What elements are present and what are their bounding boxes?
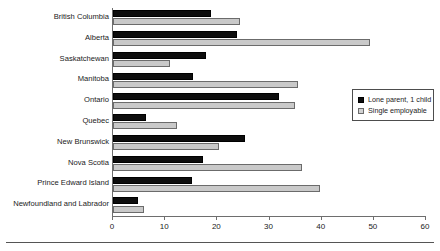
- bar-single-employable: [113, 122, 177, 129]
- bar-lone-parent: [113, 31, 237, 38]
- chart-legend: Lone parent, 1 child Single employable: [352, 89, 434, 121]
- footer-divider: [6, 242, 434, 243]
- bar-group-row: Saskatchewan: [112, 50, 425, 71]
- category-axis-label: Prince Edward Island: [0, 178, 112, 187]
- x-axis-tick: [269, 216, 270, 220]
- bar-lone-parent: [113, 114, 146, 121]
- bar-lone-parent: [113, 52, 206, 59]
- bar-lone-parent: [113, 197, 138, 204]
- bar-single-employable: [113, 206, 144, 213]
- black-square-swatch-icon: [358, 97, 364, 103]
- bar-lone-parent: [113, 135, 245, 142]
- bar-single-employable: [113, 185, 320, 192]
- x-axis-tick: [216, 216, 217, 220]
- category-axis-label: Newfoundland and Labrador: [0, 199, 112, 208]
- bar-chart-figure: 0102030405060 British ColumbiaAlbertaSas…: [0, 0, 440, 251]
- x-axis-tick-label: 30: [249, 222, 289, 232]
- bar-single-employable: [113, 102, 295, 109]
- gray-square-swatch-icon: [358, 108, 364, 114]
- category-axis-label: Quebec: [0, 116, 112, 125]
- bar-single-employable: [113, 143, 219, 150]
- category-axis-label: Alberta: [0, 33, 112, 42]
- bar-single-employable: [113, 39, 370, 46]
- x-axis-tick-label: 20: [196, 222, 236, 232]
- x-axis-tick: [321, 216, 322, 220]
- x-axis-tick-label: 50: [353, 222, 393, 232]
- bar-single-employable: [113, 18, 240, 25]
- x-axis-tick: [425, 216, 426, 220]
- category-axis-label: New Brunswick: [0, 137, 112, 146]
- x-axis-tick: [112, 216, 113, 220]
- category-axis-label: Saskatchewan: [0, 54, 112, 63]
- bar-lone-parent: [113, 93, 279, 100]
- category-axis-label: British Columbia: [0, 12, 112, 21]
- bar-single-employable: [113, 81, 298, 88]
- x-axis-tick-label: 40: [301, 222, 341, 232]
- legend-label-lone-parent: Lone parent, 1 child: [368, 95, 431, 104]
- legend-entry-lone-parent: Lone parent, 1 child: [358, 94, 429, 105]
- bar-single-employable: [113, 164, 302, 171]
- x-axis-tick-label: 60: [405, 222, 440, 232]
- bar-lone-parent: [113, 177, 192, 184]
- x-axis-tick-label: 10: [144, 222, 184, 232]
- category-axis-label: Nova Scotia: [0, 158, 112, 167]
- bar-group-row: Alberta: [112, 29, 425, 50]
- category-axis-label: Manitoba: [0, 74, 112, 83]
- bar-lone-parent: [113, 10, 211, 17]
- bar-single-employable: [113, 60, 170, 67]
- bar-group-row: Prince Edward Island: [112, 174, 425, 195]
- category-axis-label: Ontario: [0, 95, 112, 104]
- x-axis-tick: [164, 216, 165, 220]
- x-axis-tick: [373, 216, 374, 220]
- bar-group-row: New Brunswick: [112, 133, 425, 154]
- x-axis-tick-label: 0: [92, 222, 132, 232]
- bar-group-row: Newfoundland and Labrador: [112, 195, 425, 216]
- bar-group-row: British Columbia: [112, 8, 425, 29]
- bar-lone-parent: [113, 73, 193, 80]
- legend-label-single-employable: Single employable: [368, 106, 427, 115]
- bar-lone-parent: [113, 156, 203, 163]
- bar-group-row: Nova Scotia: [112, 154, 425, 175]
- legend-entry-single-employable: Single employable: [358, 105, 429, 116]
